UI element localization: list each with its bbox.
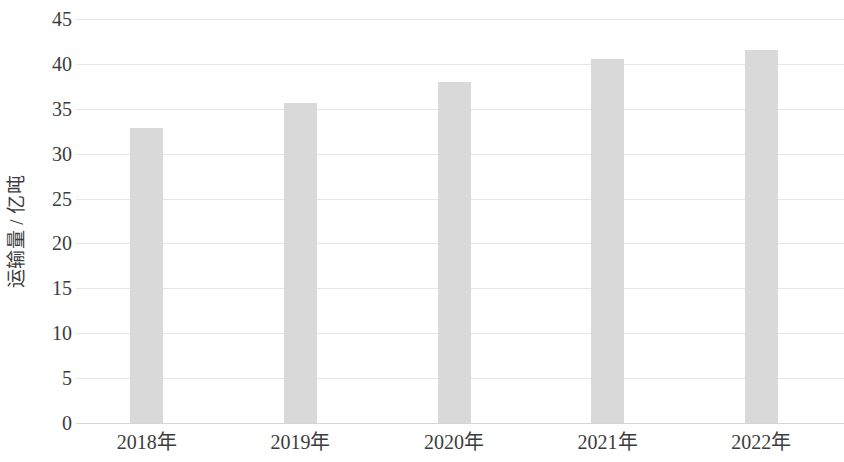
- x-axis-tick-labels: 2018年2019年2020年2021年2022年: [76, 427, 844, 462]
- bar: [284, 103, 317, 423]
- y-axis-title-text: 运输量 / 亿吨: [2, 174, 29, 288]
- y-axis-tick-label: 20: [30, 233, 72, 253]
- y-axis-tick-label: 15: [30, 278, 72, 298]
- bar: [130, 128, 163, 423]
- x-axis-tick-label: 2019年: [270, 427, 330, 457]
- bar-chart: 运输量 / 亿吨 051015202530354045 2018年2019年20…: [0, 0, 844, 462]
- y-axis-tick-label: 45: [30, 9, 72, 29]
- y-axis-tick-label: 25: [30, 189, 72, 209]
- plot-area: [76, 19, 844, 423]
- gridline: [76, 19, 844, 20]
- y-axis-tick-label: 35: [30, 99, 72, 119]
- x-axis-baseline: [76, 423, 844, 424]
- bar: [745, 50, 778, 423]
- y-axis-tick-label: 40: [30, 54, 72, 74]
- x-axis-tick-label: 2020年: [424, 427, 484, 457]
- bar: [438, 82, 471, 423]
- x-axis-tick-label: 2022年: [731, 427, 791, 457]
- y-axis-tick-label: 30: [30, 144, 72, 164]
- y-axis-tick-label: 5: [30, 368, 72, 388]
- bar: [591, 59, 624, 423]
- gridline: [76, 64, 844, 65]
- x-axis-tick-label: 2021年: [578, 427, 638, 457]
- y-axis-tick-label: 0: [30, 413, 72, 433]
- x-axis-tick-label: 2018年: [117, 427, 177, 457]
- y-axis-tick-label: 10: [30, 323, 72, 343]
- y-axis-tick-labels: 051015202530354045: [30, 0, 72, 462]
- y-axis-title: 运输量 / 亿吨: [0, 0, 30, 462]
